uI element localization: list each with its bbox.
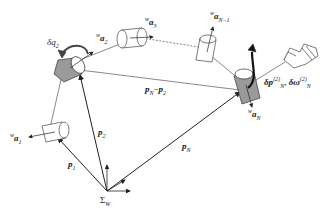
label-delta-q2: δq2 [47,38,59,49]
joint-n-minus-1-cylinder [196,27,216,62]
label-p2: p2 [98,128,106,139]
joint-2-cylinder [54,46,93,82]
label-a1: wa1 [10,132,22,145]
label-a2: wa2 [96,32,108,45]
hand-end-effector [284,44,318,68]
label-pN-minus-p2: pN−p2 [145,85,166,96]
vector-p1 [58,138,107,191]
joint-3-cylinder [117,28,153,48]
label-sigma-w: ΣW [100,196,110,207]
diagram-canvas [0,0,324,219]
label-pN: pN [182,142,191,153]
vector-pN [107,92,240,191]
label-p1: p1 [68,160,76,171]
label-end-effector-deltas: δp(2)N, δω(2)N [264,76,311,89]
label-aN: waN [248,108,261,121]
label-a3: wa3 [145,16,157,29]
joint-n-cylinder [234,44,260,107]
label-aN-1: waN−1 [210,10,230,23]
joint-1-cylinder [29,122,69,142]
world-frame-axes [107,165,130,191]
